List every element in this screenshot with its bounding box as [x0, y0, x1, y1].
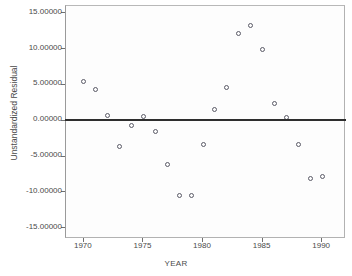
data-point [189, 193, 194, 198]
zero-reference-line [65, 119, 346, 121]
data-point [105, 113, 110, 118]
y-tick-label: -5.00000 [6, 150, 62, 159]
data-point [224, 85, 229, 90]
data-point [272, 101, 277, 106]
data-point [129, 123, 134, 128]
y-tick-label: -15.00000 [6, 222, 62, 231]
residual-scatter-figure: Unstandardized Residual 15.0000010.00000… [0, 0, 352, 276]
y-tick-label: -10.00000 [6, 186, 62, 195]
data-point [117, 144, 122, 149]
data-point [320, 174, 325, 179]
data-point [308, 176, 313, 181]
y-tick-label: 0.00000 [6, 114, 62, 123]
x-tick-label: 1990 [301, 241, 341, 250]
data-point [93, 87, 98, 92]
data-point [165, 162, 170, 167]
plot-area [65, 5, 345, 238]
y-tick-label: 10.00000 [6, 43, 62, 52]
data-point [177, 193, 182, 198]
data-point [260, 47, 265, 52]
x-axis-title: YEAR [0, 259, 352, 268]
data-point [236, 31, 241, 36]
y-axis-title: Unstandardized Residual [9, 43, 19, 183]
x-tick-label: 1975 [122, 241, 162, 250]
data-point [248, 23, 253, 28]
y-tick-label: 5.00000 [6, 78, 62, 87]
data-point [153, 129, 158, 134]
data-point [212, 107, 217, 112]
data-point [81, 79, 86, 84]
data-point [201, 142, 206, 147]
y-tick-label: 15.00000 [6, 7, 62, 16]
x-tick-label: 1970 [63, 241, 103, 250]
x-tick-label: 1980 [182, 241, 222, 250]
data-point [296, 142, 301, 147]
x-tick-label: 1985 [242, 241, 282, 250]
